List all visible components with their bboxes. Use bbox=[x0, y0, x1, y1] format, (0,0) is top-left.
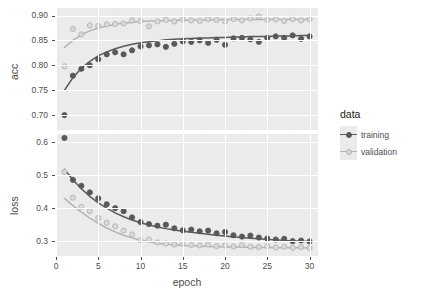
gridline-vertical-minor bbox=[246, 134, 247, 135]
gridline-horizontal bbox=[56, 16, 318, 17]
data-point-training bbox=[129, 48, 134, 53]
data-point-validation bbox=[129, 232, 134, 237]
x-tick-label: 10 bbox=[128, 262, 154, 271]
gridline-vertical-minor bbox=[288, 8, 289, 9]
data-point-validation bbox=[214, 244, 219, 249]
data-point-training bbox=[197, 229, 202, 234]
legend-items: trainingvalidation bbox=[340, 126, 432, 160]
data-point-validation bbox=[70, 195, 75, 200]
data-point-validation bbox=[87, 23, 92, 28]
data-point-validation bbox=[70, 26, 75, 31]
data-point-training bbox=[70, 177, 75, 182]
y-axis-title-loss: loss bbox=[8, 196, 20, 215]
x-axis-title: epoch bbox=[56, 276, 318, 288]
data-point-validation bbox=[62, 169, 67, 174]
data-point-training bbox=[256, 235, 261, 240]
gridline-horizontal bbox=[56, 142, 318, 143]
data-point-validation bbox=[214, 17, 219, 22]
data-point-validation bbox=[163, 17, 168, 22]
y-tick-label: 0.80 bbox=[31, 61, 48, 70]
data-point-validation bbox=[206, 16, 211, 21]
data-point-training bbox=[239, 234, 244, 239]
data-point-training bbox=[214, 231, 219, 236]
data-point-training bbox=[231, 233, 236, 238]
y-tick-label: 0.5 bbox=[36, 171, 48, 180]
gridline-vertical bbox=[56, 8, 57, 130]
x-tick-mark bbox=[225, 257, 226, 260]
data-point-training bbox=[155, 42, 160, 47]
x-tick-mark bbox=[267, 257, 268, 260]
data-point-validation bbox=[155, 19, 160, 24]
gridline-vertical-minor bbox=[204, 8, 205, 9]
y-tick-mark bbox=[52, 90, 55, 91]
data-point-training bbox=[248, 233, 253, 238]
legend-key-icon bbox=[340, 126, 357, 143]
x-tick-label: 0 bbox=[43, 262, 69, 271]
gridline-horizontal bbox=[56, 115, 318, 116]
data-point-validation bbox=[290, 16, 295, 21]
gridline-vertical bbox=[98, 8, 99, 130]
data-point-training bbox=[146, 43, 151, 48]
y-tick-mark bbox=[52, 16, 55, 17]
series-layer-acc bbox=[56, 8, 318, 130]
data-point-training bbox=[290, 33, 295, 38]
x-tick-mark bbox=[56, 257, 57, 260]
data-point-training bbox=[70, 73, 75, 78]
legend-item-training[interactable]: training bbox=[340, 126, 432, 143]
data-point-validation bbox=[87, 209, 92, 214]
gridline-vertical bbox=[310, 8, 311, 130]
y-tick-mark bbox=[52, 241, 55, 242]
data-point-training bbox=[62, 135, 67, 140]
gridline-vertical-minor bbox=[119, 8, 120, 9]
gridline-vertical-minor bbox=[288, 134, 289, 135]
x-tick-label: 15 bbox=[170, 262, 196, 271]
y-tick-label: 0.75 bbox=[31, 86, 48, 95]
y-tick-label: 0.6 bbox=[36, 138, 48, 147]
gridline-horizontal bbox=[56, 175, 318, 176]
data-point-validation bbox=[121, 228, 126, 233]
y-tick-mark bbox=[52, 115, 55, 116]
legend-key-point bbox=[346, 149, 352, 155]
data-point-training bbox=[206, 228, 211, 233]
gridline-vertical-minor bbox=[77, 8, 78, 9]
trend-line-training bbox=[64, 169, 309, 241]
data-point-validation bbox=[189, 243, 194, 248]
data-point-validation bbox=[129, 18, 134, 23]
gridline-horizontal bbox=[56, 40, 318, 41]
data-point-validation bbox=[282, 18, 287, 23]
gridline-vertical bbox=[225, 134, 226, 256]
series-layer-loss bbox=[56, 134, 318, 256]
y-tick-mark bbox=[52, 40, 55, 41]
data-point-validation bbox=[104, 220, 109, 225]
y-axis-ticks: 0.700.750.800.850.900.30.40.50.6 bbox=[0, 0, 48, 295]
data-point-training bbox=[273, 34, 278, 39]
data-point-training bbox=[121, 209, 126, 214]
gridline-vertical-minor bbox=[162, 8, 163, 9]
y-axis-title-acc: acc bbox=[8, 64, 20, 80]
gridline-vertical-minor bbox=[162, 134, 163, 135]
data-point-validation bbox=[231, 16, 236, 21]
data-point-validation bbox=[273, 17, 278, 22]
data-point-validation bbox=[206, 242, 211, 247]
x-tick-label: 30 bbox=[297, 262, 323, 271]
gridline-vertical-minor bbox=[119, 134, 120, 135]
legend-item-validation[interactable]: validation bbox=[340, 143, 432, 160]
y-tick-label: 0.85 bbox=[31, 36, 48, 45]
gridline-vertical bbox=[225, 8, 226, 130]
gridline-horizontal bbox=[56, 65, 318, 66]
data-point-training bbox=[172, 226, 177, 231]
data-point-training bbox=[172, 41, 177, 46]
legend-item-label: training bbox=[361, 130, 389, 140]
data-point-validation bbox=[273, 245, 278, 250]
data-point-training bbox=[189, 227, 194, 232]
legend: data trainingvalidation bbox=[340, 108, 432, 160]
data-point-training bbox=[104, 202, 109, 207]
data-point-training bbox=[155, 223, 160, 228]
legend-key-icon bbox=[340, 143, 357, 160]
gridline-vertical bbox=[141, 8, 142, 130]
data-point-training bbox=[129, 215, 134, 220]
data-point-validation bbox=[146, 24, 151, 29]
y-tick-mark bbox=[52, 142, 55, 143]
data-point-validation bbox=[282, 244, 287, 249]
data-point-validation bbox=[113, 224, 118, 229]
